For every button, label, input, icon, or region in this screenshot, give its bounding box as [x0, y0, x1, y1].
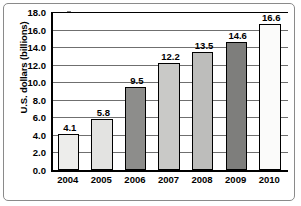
bar-slot: 9.5 [120, 12, 154, 170]
y-axis-tick-labels: 0.02.04.06.08.010.012.014.016.018.0 [20, 12, 46, 170]
bar-slot: 16.6 [254, 12, 288, 170]
bar-value-label: 12.2 [148, 51, 192, 62]
bar[interactable] [226, 42, 247, 170]
bar[interactable] [192, 52, 213, 171]
y-tick-label: 8.0 [20, 94, 46, 105]
y-tick-label: 14.0 [20, 42, 46, 53]
bar[interactable] [125, 87, 146, 170]
bar-value-label: 13.5 [182, 40, 226, 51]
bar-value-label: 5.8 [81, 107, 125, 118]
bar-value-label: 14.6 [216, 30, 260, 41]
bar[interactable] [259, 24, 280, 170]
bar-slot: 14.6 [221, 12, 255, 170]
y-tick-label: 2.0 [20, 147, 46, 158]
x-tick-label: 2010 [247, 174, 291, 185]
y-tick-label: 10.0 [20, 77, 46, 88]
bar-slot: 5.8 [87, 12, 121, 170]
plot-area: 4.15.89.512.213.514.616.6 [51, 12, 288, 172]
bars-group: 4.15.89.512.213.514.616.6 [53, 12, 288, 170]
bar[interactable] [91, 119, 112, 170]
bar[interactable] [58, 134, 79, 170]
bar-value-label: 9.5 [115, 75, 159, 86]
y-tick-label: 6.0 [20, 112, 46, 123]
bar-slot: 12.2 [154, 12, 188, 170]
y-tick-label: 12.0 [20, 59, 46, 70]
bar-chart-figure: U.S. dollars (billions) 0.02.04.06.08.01… [0, 0, 301, 206]
y-tick-label: 18.0 [20, 7, 46, 18]
bar-slot: 4.1 [53, 12, 87, 170]
y-tick-label: 0.0 [20, 165, 46, 176]
bar[interactable] [158, 63, 179, 170]
x-axis-tick-labels: 2004200520062007200820092010 [51, 174, 286, 190]
y-tick-label: 4.0 [20, 129, 46, 140]
y-tick-label: 16.0 [20, 24, 46, 35]
bar-value-label: 16.6 [249, 12, 288, 23]
